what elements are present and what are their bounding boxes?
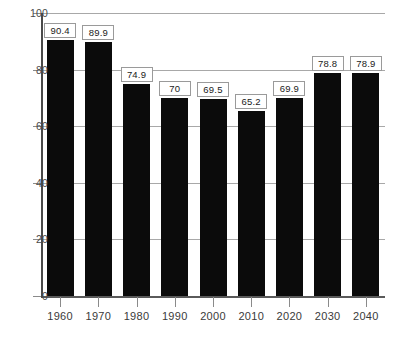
bar-value-label: 90.4 bbox=[44, 23, 76, 38]
bar-value-label: 78.8 bbox=[312, 56, 344, 71]
y-tick-label: 0 bbox=[8, 291, 48, 302]
y-tick-label: 20 bbox=[8, 234, 48, 245]
bar-value-label: 69.9 bbox=[273, 81, 305, 96]
bar bbox=[314, 73, 341, 296]
x-tick-mark bbox=[251, 297, 252, 307]
bar bbox=[276, 98, 303, 296]
x-tick-mark bbox=[213, 297, 214, 307]
x-tick-mark bbox=[366, 297, 367, 307]
bar bbox=[200, 99, 227, 296]
bar-value-label: 74.9 bbox=[121, 67, 153, 82]
bar-value-label: 78.9 bbox=[350, 56, 382, 71]
bar bbox=[123, 84, 150, 296]
y-tick-label: 80 bbox=[8, 65, 48, 76]
y-tick-label: 60 bbox=[8, 121, 48, 132]
bar-value-label: 70 bbox=[159, 81, 191, 96]
x-tick-mark bbox=[60, 297, 61, 307]
x-tick-label: 2040 bbox=[344, 311, 388, 322]
bar-value-label: 69.5 bbox=[197, 82, 229, 97]
x-tick-mark bbox=[137, 297, 138, 307]
bar bbox=[47, 40, 74, 296]
bar-chart: 020406080100 90.489.974.97069.565.269.97… bbox=[0, 0, 396, 337]
x-tick-mark bbox=[328, 297, 329, 307]
y-tick-label: 40 bbox=[8, 178, 48, 189]
x-tick-mark bbox=[98, 297, 99, 307]
bar-value-label: 89.9 bbox=[82, 25, 114, 40]
bar bbox=[161, 98, 188, 296]
bar bbox=[85, 42, 112, 296]
bar-value-label: 65.2 bbox=[235, 94, 267, 109]
x-tick-mark bbox=[175, 297, 176, 307]
y-tick-label: 100 bbox=[8, 8, 48, 19]
gridline-100 bbox=[41, 13, 385, 14]
y-axis-line bbox=[41, 13, 43, 298]
bar bbox=[238, 111, 265, 296]
x-tick-mark bbox=[289, 297, 290, 307]
bar bbox=[352, 73, 379, 296]
